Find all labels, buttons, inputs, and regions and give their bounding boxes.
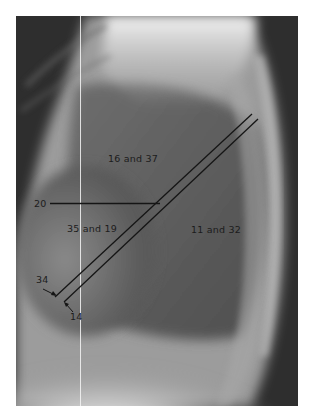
label-14: 14	[70, 311, 83, 322]
upper-diagonal-line	[55, 114, 252, 297]
label-20: 20	[34, 198, 47, 209]
arrow-34	[43, 289, 57, 296]
label-11-and-32: 11 and 32	[191, 224, 241, 235]
label-34: 34	[36, 274, 49, 285]
label-35-and-19: 35 and 19	[67, 223, 117, 234]
annotation-overlay	[0, 0, 313, 416]
label-16-and-37: 16 and 37	[108, 153, 158, 164]
lower-diagonal-line	[64, 119, 258, 302]
